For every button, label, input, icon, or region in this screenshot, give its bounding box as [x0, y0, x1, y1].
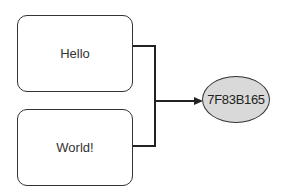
node-hello: Hello — [17, 15, 133, 92]
node-world-label: World! — [56, 140, 93, 155]
node-world: World! — [17, 109, 133, 186]
node-hash-output: 7F83B165 — [202, 76, 270, 123]
node-hash-label: 7F83B165 — [207, 92, 265, 107]
node-hello-label: Hello — [60, 46, 90, 61]
